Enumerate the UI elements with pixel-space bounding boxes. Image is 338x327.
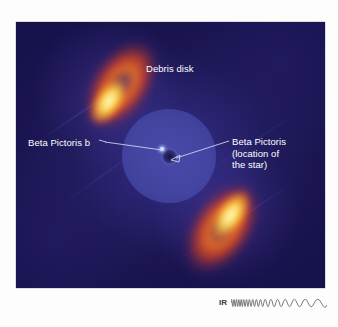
label-star-line-1: Beta Pictoris [232,136,286,148]
label-beta-pictoris-b-line: Beta Pictoris b [28,137,90,149]
lobe-bright-core [200,181,261,250]
lobe-outer-glow [63,22,179,149]
label-beta-pictoris-star: Beta Pictoris (location of the star) [232,136,286,171]
coronagraph-mask [122,109,216,203]
star-residual-speckle [161,148,178,165]
label-debris-disk: Debris disk [146,63,194,75]
ir-dense-block [231,300,264,307]
ir-waveform-icon [231,294,327,312]
speckle-streak [36,75,136,143]
label-star-line-3: the star) [232,159,286,171]
ir-key-label: IR [219,298,227,308]
ir-wavelength-key: IR [219,294,327,312]
ir-wave-sweep [264,299,327,307]
figure-root: Debris disk Beta Pictoris b Beta Pictori… [0,0,338,327]
label-beta-pictoris-b: Beta Pictoris b [28,137,90,149]
debris-disk-lobe-southwest [162,163,281,288]
lobe-bright-core [80,68,139,134]
speckle-streak [65,143,147,203]
lobe-outer-glow [162,163,281,288]
planet-point-source [160,147,164,151]
debris-disk-lobe-northeast [63,22,179,149]
label-debris-disk-line: Debris disk [146,63,194,75]
speckle-streak [178,181,295,261]
label-star-line-2: (location of [232,148,286,160]
